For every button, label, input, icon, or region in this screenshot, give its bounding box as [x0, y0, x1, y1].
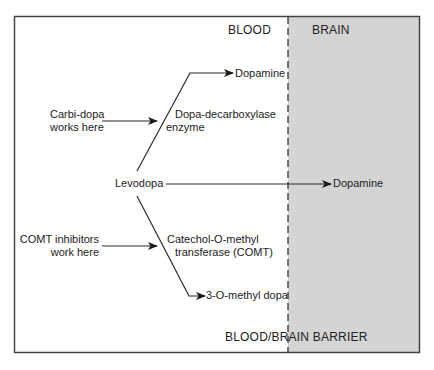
dopamine-brain-label: Dopamine [333, 177, 383, 190]
comt-enzyme-label-line1: Catechol-O-methyl [167, 233, 259, 246]
comt-inhibitor-label-line1: COMT inhibitors [20, 233, 99, 246]
methyl-dopa-label: 3-O-methyl dopa [206, 289, 288, 302]
carbidopa-label-line1: Carbi-dopa [50, 108, 104, 121]
comt-inhibitor-label-line2: work here [51, 246, 99, 259]
dopamine-blood-label: Dopamine [235, 67, 285, 80]
barrier-label: BLOOD/BRAIN BARRIER [225, 330, 368, 344]
levodopa-pathway-diagram: BLOOD BRAIN BLOOD/BRAIN BARRIER Dopamine… [0, 0, 434, 370]
ddc-enzyme-label-line1: Dopa-decarboxylase [175, 108, 276, 121]
blood-label: BLOOD [228, 23, 271, 37]
comt-enzyme-label-line2: transferase (COMT) [175, 246, 273, 259]
levodopa-label: Levodopa [115, 177, 163, 190]
ddc-enzyme-label-line2: enzyme [166, 121, 205, 134]
carbidopa-label-line2: works here [50, 121, 104, 134]
brain-label: BRAIN [312, 23, 350, 37]
